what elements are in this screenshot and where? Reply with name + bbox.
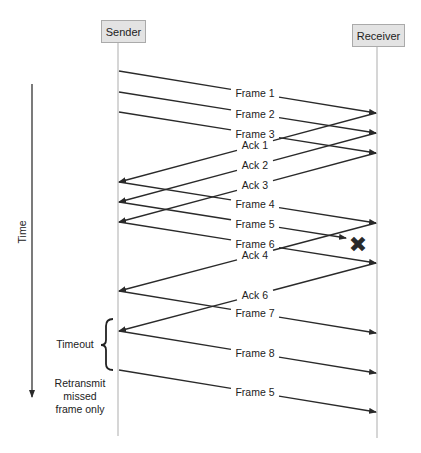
- message-line: [119, 222, 231, 240]
- message-line: [279, 227, 346, 238]
- message-label: Frame 6: [235, 238, 274, 250]
- message-line: [279, 317, 376, 333]
- message-line: [273, 263, 376, 290]
- message-line: [279, 357, 376, 373]
- message-line: [119, 150, 237, 182]
- message-label: Frame 7: [235, 307, 274, 319]
- message-label: Frame 5: [235, 386, 274, 398]
- message-line: [279, 118, 376, 133]
- message-line: [119, 300, 237, 331]
- message-label: Frame 1: [235, 87, 274, 99]
- message-label: Frame 3: [235, 128, 274, 140]
- message-line: [119, 92, 231, 110]
- message-arrows: Frame 1Frame 2Frame 3Ack 1Ack 2Ack 3Fram…: [119, 71, 376, 412]
- message-line: [119, 260, 237, 291]
- message-label: Ack 4: [242, 249, 268, 261]
- message-line: [119, 291, 231, 309]
- message-line: [279, 138, 376, 153]
- message-line: [279, 97, 376, 113]
- message-label: Ack 2: [242, 159, 268, 171]
- message-line: [119, 331, 231, 349]
- message-label: Frame 8: [235, 347, 274, 359]
- message-label: Frame 2: [235, 108, 274, 120]
- message-line: [279, 396, 376, 412]
- message-line: [119, 71, 231, 89]
- message-line: [119, 170, 237, 202]
- message-line: [119, 190, 237, 222]
- message-label: Ack 6: [242, 289, 268, 301]
- retransmit-line-2: missed: [48, 390, 112, 403]
- retransmit-line-1: Retransmit: [48, 377, 112, 390]
- message-line: [279, 208, 376, 223]
- message-label: Frame 5: [235, 218, 274, 230]
- message-line: [119, 370, 231, 388]
- retransmit-note: Retransmit missed frame only: [48, 377, 112, 416]
- lost-frame-x-icon: ✖: [349, 232, 367, 257]
- timeout-label: Timeout: [50, 338, 100, 351]
- message-label: Ack 1: [242, 139, 268, 151]
- timeout-brace: [101, 319, 113, 370]
- retransmit-line-3: frame only: [48, 403, 112, 416]
- message-label: Frame 4: [235, 198, 274, 210]
- message-line: [119, 112, 231, 130]
- message-label: Ack 3: [242, 179, 268, 191]
- time-axis-label: Time: [16, 220, 28, 243]
